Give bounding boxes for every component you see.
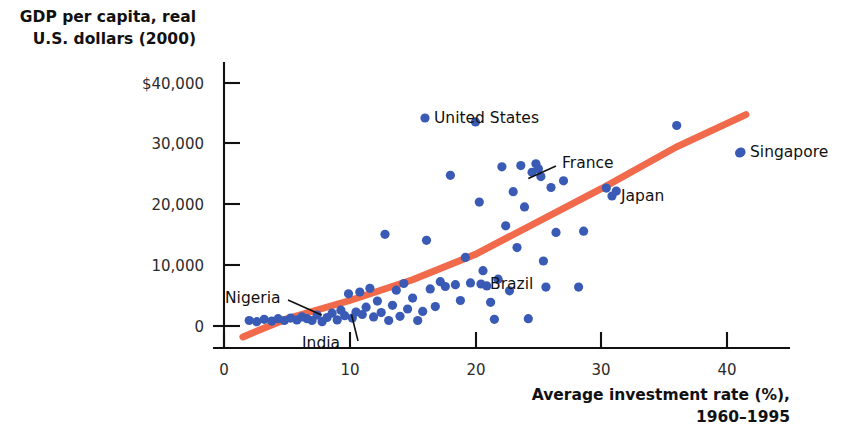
data-point: [541, 283, 550, 292]
data-point: [520, 202, 529, 211]
data-point: [388, 301, 397, 310]
data-point: [260, 315, 269, 324]
data-points: [245, 113, 746, 326]
data-point: [344, 289, 353, 298]
data-point: [551, 228, 560, 237]
y-tick-label-40000: $40,000: [142, 75, 204, 93]
data-point: [559, 176, 568, 185]
y-tick-label-10000: 10,000: [152, 257, 205, 275]
data-point: [602, 184, 611, 193]
data-point: [579, 227, 588, 236]
data-point: [546, 183, 555, 192]
data-point: [446, 171, 455, 180]
data-point: [418, 307, 427, 316]
data-point: [399, 279, 408, 288]
data-point: [497, 162, 506, 171]
x-tick-label-20: 20: [466, 361, 485, 379]
annotated-data-point: [736, 147, 745, 156]
data-point: [501, 221, 510, 230]
data-point: [478, 266, 487, 275]
data-point: [524, 314, 533, 323]
data-point: [441, 282, 450, 291]
annotation-label-india: India: [302, 334, 340, 352]
x-tick-label-0: 0: [219, 361, 229, 379]
data-point: [392, 286, 401, 295]
x-tick-label-10: 10: [340, 361, 359, 379]
data-point: [512, 243, 521, 252]
y-axis-title-line1: GDP per capita, real: [20, 8, 196, 26]
data-point: [451, 280, 460, 289]
data-point: [672, 121, 681, 130]
data-point: [539, 256, 548, 265]
data-point: [574, 283, 583, 292]
data-point: [509, 187, 518, 196]
y-tick-label-20000: 20,000: [152, 196, 205, 214]
x-axis-title-line2: 1960–1995: [696, 408, 790, 426]
annotation-label-france: France: [562, 154, 614, 172]
annotation-label-nigeria: Nigeria: [225, 289, 280, 307]
x-tick-label-40: 40: [717, 361, 736, 379]
data-point: [377, 308, 386, 317]
x-tick-label-30: 30: [591, 361, 610, 379]
data-point: [408, 294, 417, 303]
annotation-label-brazil: Brazil: [490, 275, 533, 293]
data-point: [486, 298, 495, 307]
data-point: [413, 316, 422, 325]
data-point: [516, 161, 525, 170]
annotation-label-japan: Japan: [620, 187, 664, 205]
data-point: [475, 198, 484, 207]
data-point: [490, 315, 499, 324]
annotated-data-point: [607, 191, 616, 200]
scatter-chart: GDP per capita, real U.S. dollars (2000)…: [0, 0, 841, 431]
data-point: [422, 236, 431, 245]
data-point: [373, 297, 382, 306]
data-point: [461, 253, 470, 262]
plot-area: GDP per capita, real U.S. dollars (2000)…: [0, 0, 841, 431]
annotation-label-singapore: Singapore: [750, 143, 828, 161]
data-point: [456, 296, 465, 305]
data-point: [355, 287, 364, 296]
x-axis-ticks: [224, 332, 727, 348]
data-point: [426, 284, 435, 293]
x-axis-title-line1: Average investment rate (%),: [532, 386, 790, 404]
y-tick-label-30000: 30,000: [152, 135, 205, 153]
data-point: [384, 316, 393, 325]
data-point: [431, 302, 440, 311]
y-axis-title-line2: U.S. dollars (2000): [33, 30, 196, 48]
y-tick-label-0: 0: [194, 318, 204, 336]
data-point: [362, 303, 371, 312]
data-point: [395, 312, 404, 321]
data-point: [380, 230, 389, 239]
annotated-data-point: [476, 279, 485, 288]
data-point: [466, 278, 475, 287]
data-point: [403, 304, 412, 313]
data-point: [365, 284, 374, 293]
annotation-label-united-states: United States: [434, 109, 539, 127]
annotated-data-point: [420, 113, 429, 122]
